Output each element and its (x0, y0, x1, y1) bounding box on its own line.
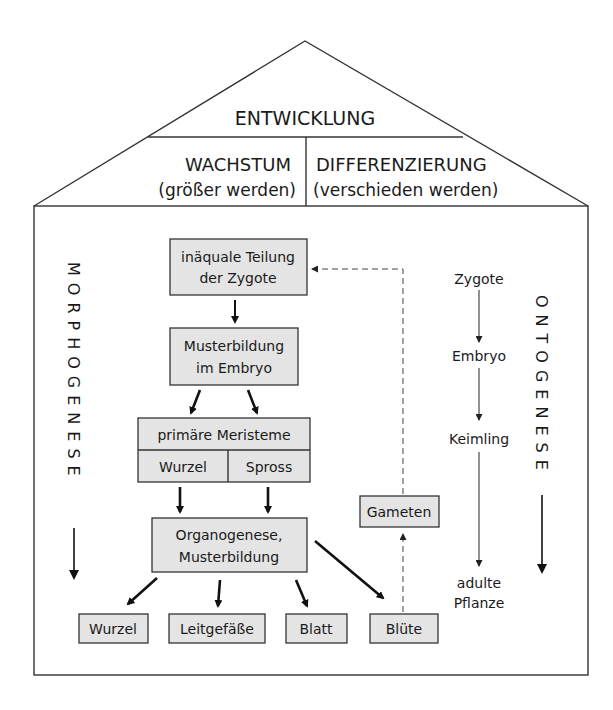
ontogenesis-label: ONTOGENESE (532, 295, 551, 572)
ontogeny-stages: Zygote Embryo Keimling adulte Pflanze (449, 271, 509, 611)
stage-seedling: Keimling (449, 431, 509, 447)
arrow-to-meristem-right-icon (248, 390, 257, 413)
morphogenesis-label: MORPHOGENESE (64, 262, 83, 578)
meristems-shoot: Spross (246, 459, 292, 475)
differentiation-title: DIFFERENZIERUNG (316, 154, 487, 175)
ontogenesis-text: ONTOGENESE (532, 295, 551, 477)
zygote-division-line2: der Zygote (199, 270, 276, 286)
growth-title: WACHSTUM (185, 154, 291, 175)
growth-subtitle: (größer werden) (158, 180, 296, 200)
arrow-to-meristem-left-icon (191, 390, 200, 413)
organ-root-label: Wurzel (89, 621, 137, 637)
differentiation-subtitle: (verschieden werden) (313, 180, 498, 200)
organ-flower-label: Blüte (386, 621, 422, 637)
organogenesis-box: Organogenese, Musterbildung (152, 518, 307, 572)
development-title: ENTWICKLUNG (235, 107, 375, 129)
organ-vessels-label: Leitgefäße (180, 621, 254, 637)
organ-leaf-box: Blatt (286, 614, 347, 643)
gametes-box: Gameten (360, 496, 439, 527)
arrow-to-root-icon (128, 578, 157, 604)
stage-adult-line2: Pflanze (454, 595, 505, 611)
organogenesis-line1: Organogenese, (176, 527, 283, 543)
organogenesis-line2: Musterbildung (179, 549, 279, 565)
stage-zygote: Zygote (454, 271, 503, 287)
meristems-box: primäre Meristeme Wurzel Spross (138, 418, 310, 482)
organ-flower-box: Blüte (370, 614, 438, 643)
organ-root-box: Wurzel (79, 614, 148, 643)
embryo-pattern-line2: im Embryo (196, 360, 272, 376)
roof: ENTWICKLUNG WACHSTUM (größer werden) DIF… (34, 41, 588, 206)
dashed-arrow-gametes-to-zygote-icon (312, 269, 403, 494)
organ-vessels-box: Leitgefäße (169, 614, 265, 643)
embryo-pattern-box: Musterbildung im Embryo (170, 328, 298, 385)
stage-embryo: Embryo (452, 348, 506, 364)
zygote-division-box: inäquale Teilung der Zygote (170, 239, 307, 295)
zygote-division-line1: inäquale Teilung (181, 249, 295, 265)
meristems-title: primäre Meristeme (157, 427, 290, 443)
arrow-to-flower-icon (315, 541, 383, 598)
morphogenesis-text: MORPHOGENESE (64, 262, 83, 483)
meristems-root: Wurzel (159, 459, 207, 475)
arrow-to-vessels-icon (218, 580, 220, 606)
embryo-pattern-line1: Musterbildung (184, 338, 284, 354)
gametes-label: Gameten (367, 504, 432, 520)
organ-leaf-label: Blatt (299, 621, 333, 637)
arrow-to-leaf-icon (296, 580, 307, 606)
development-house-diagram: ENTWICKLUNG WACHSTUM (größer werden) DIF… (0, 0, 613, 710)
stage-adult-line1: adulte (457, 575, 501, 591)
